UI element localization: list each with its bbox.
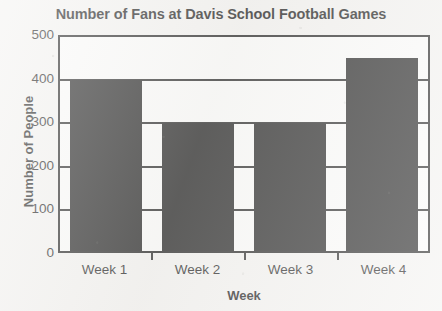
y-tick-label-300: 300 (2, 115, 54, 129)
bar-week-1[interactable] (70, 80, 142, 251)
x-tick-boundary-1 (151, 253, 153, 260)
bar-slot-week-1 (60, 37, 152, 251)
y-tick-label-400: 400 (2, 72, 54, 86)
chart-title: Number of Fans at Davis School Football … (0, 6, 442, 22)
x-tick-label-week-4: Week 4 (337, 262, 430, 277)
y-tick-label-500: 500 (2, 28, 54, 42)
y-axis-tick-labels: 500 400 300 200 100 0 (0, 0, 54, 311)
bar-slot-week-4 (336, 37, 428, 251)
x-axis-tick-labels: Week 1 Week 2 Week 3 Week 4 (58, 262, 430, 277)
x-tick-label-week-1: Week 1 (58, 262, 151, 277)
x-tick-label-week-3: Week 3 (244, 262, 337, 277)
bar-slot-week-3 (244, 37, 336, 251)
plot-area (58, 35, 430, 253)
bar-week-4[interactable] (346, 58, 418, 251)
y-tick-label-0: 0 (2, 246, 54, 260)
x-axis-title: Week (58, 288, 430, 303)
x-tick-boundary-3 (337, 253, 339, 260)
bar-slot-week-2 (152, 37, 244, 251)
x-tick-label-week-2: Week 2 (151, 262, 244, 277)
bar-week-2[interactable] (162, 123, 234, 251)
bar-week-3[interactable] (254, 123, 326, 251)
x-tick-boundary-2 (244, 253, 246, 260)
y-tick-label-100: 100 (2, 203, 54, 217)
y-tick-label-200: 200 (2, 159, 54, 173)
bars-layer (60, 37, 428, 251)
